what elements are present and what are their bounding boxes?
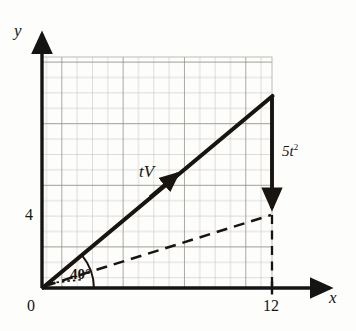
drop-vector-exponent: 2	[294, 142, 299, 152]
vector-diagram-svg	[0, 0, 356, 331]
angle-label-40deg: 40°	[70, 267, 91, 282]
x-tick-label-12: 12	[263, 298, 279, 314]
grid-area	[42, 57, 272, 288]
y-tick-label-4: 4	[25, 207, 33, 223]
drop-vector-label: 5t2	[282, 144, 298, 159]
x-axis-label: x	[329, 289, 337, 306]
drop-vector-number: 5	[282, 143, 290, 159]
velocity-vector-label: tV	[139, 163, 154, 180]
origin-label: 0	[27, 298, 35, 314]
figure-container: y x 0 4 12 tV 5t2 40°	[0, 0, 356, 331]
y-axis-label: y	[14, 22, 22, 39]
